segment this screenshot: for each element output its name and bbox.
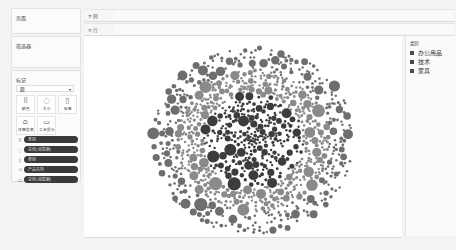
- bubble-mark[interactable]: [312, 103, 314, 105]
- bubble-mark[interactable]: [214, 89, 217, 92]
- bubble-mark[interactable]: [260, 162, 264, 166]
- bubble-mark[interactable]: [237, 143, 241, 147]
- bubble-mark[interactable]: [339, 161, 343, 165]
- bubble-mark[interactable]: [314, 119, 317, 122]
- bubble-mark[interactable]: [188, 131, 191, 134]
- bubble-mark[interactable]: [327, 165, 330, 168]
- bubble-mark[interactable]: [243, 228, 247, 232]
- bubble-mark[interactable]: [215, 190, 218, 193]
- bubble-mark[interactable]: [276, 81, 279, 84]
- pill-tooltip[interactable]: 总和(销售额): [24, 176, 78, 183]
- bubble-mark[interactable]: [209, 96, 211, 98]
- color-button[interactable]: ⠿颜色: [16, 95, 35, 114]
- bubble-mark[interactable]: [308, 150, 311, 153]
- bubble-mark[interactable]: [314, 175, 319, 180]
- bubble-mark[interactable]: [218, 86, 222, 90]
- bubble-mark[interactable]: [277, 189, 284, 196]
- packed-bubble-chart[interactable]: [84, 36, 402, 237]
- tooltip-button[interactable]: ▭工具提示: [37, 116, 56, 135]
- bubble-mark[interactable]: [248, 78, 254, 84]
- bubble-mark[interactable]: [173, 144, 175, 146]
- bubble-mark[interactable]: [277, 105, 279, 107]
- bubble-mark[interactable]: [254, 221, 257, 224]
- bubble-mark[interactable]: [230, 191, 236, 197]
- bubble-mark[interactable]: [289, 164, 294, 169]
- label-button[interactable]: ▯标签: [58, 95, 77, 114]
- bubble-mark[interactable]: [192, 147, 194, 149]
- bubble-mark[interactable]: [214, 198, 217, 201]
- bubble-mark[interactable]: [245, 82, 247, 84]
- bubble-mark[interactable]: [288, 180, 293, 185]
- bubble-mark[interactable]: [213, 95, 219, 101]
- bubble-mark[interactable]: [250, 196, 253, 199]
- bubble-mark[interactable]: [220, 137, 222, 139]
- bubble-mark[interactable]: [188, 144, 190, 146]
- bubble-mark[interactable]: [151, 144, 156, 149]
- bubble-mark[interactable]: [323, 202, 329, 208]
- bubble-mark[interactable]: [239, 101, 241, 103]
- bubble-mark[interactable]: [304, 167, 314, 177]
- bubble-mark[interactable]: [236, 80, 241, 85]
- bubble-mark[interactable]: [226, 58, 233, 65]
- bubble-mark[interactable]: [226, 188, 230, 192]
- bubble-mark[interactable]: [310, 210, 318, 218]
- bubble-mark[interactable]: [348, 124, 350, 126]
- bubble-mark[interactable]: [341, 124, 343, 126]
- bubble-mark[interactable]: [181, 151, 184, 154]
- bubble-mark[interactable]: [267, 103, 274, 110]
- bubble-mark[interactable]: [270, 221, 273, 224]
- bubble-mark[interactable]: [239, 130, 242, 133]
- bubble-mark[interactable]: [164, 159, 172, 167]
- bubble-mark[interactable]: [258, 84, 260, 86]
- bubble-mark[interactable]: [207, 79, 210, 82]
- bubble-mark[interactable]: [254, 180, 256, 182]
- bubble-mark[interactable]: [326, 112, 329, 115]
- bubble-mark[interactable]: [196, 193, 200, 197]
- bubble-mark[interactable]: [179, 96, 186, 103]
- bubble-mark[interactable]: [237, 148, 246, 157]
- bubble-mark[interactable]: [157, 121, 161, 125]
- bubble-mark[interactable]: [187, 134, 192, 139]
- bubble-mark[interactable]: [225, 127, 227, 129]
- bubble-mark[interactable]: [246, 102, 249, 105]
- bubble-mark[interactable]: [195, 132, 200, 137]
- bubble-mark[interactable]: [256, 88, 262, 94]
- bubble-mark[interactable]: [254, 131, 256, 133]
- bubble-mark[interactable]: [253, 228, 256, 231]
- bubble-mark[interactable]: [225, 89, 230, 94]
- bubble-mark[interactable]: [225, 160, 228, 163]
- bubble-mark[interactable]: [179, 105, 182, 108]
- bubble-mark[interactable]: [331, 94, 333, 96]
- bubble-mark[interactable]: [181, 199, 191, 209]
- bubble-mark[interactable]: [279, 139, 281, 141]
- bubble-mark[interactable]: [263, 136, 266, 139]
- bubble-mark[interactable]: [196, 144, 200, 148]
- bubble-mark[interactable]: [182, 133, 184, 135]
- bubble-mark[interactable]: [171, 139, 174, 142]
- bubble-mark[interactable]: [327, 184, 329, 186]
- bubble-mark[interactable]: [257, 46, 262, 51]
- bubble-mark[interactable]: [268, 131, 274, 137]
- bubble-mark[interactable]: [273, 76, 275, 78]
- bubble-mark[interactable]: [328, 146, 330, 148]
- bubble-mark[interactable]: [309, 123, 311, 125]
- bubble-mark[interactable]: [199, 158, 209, 168]
- bubble-mark[interactable]: [273, 207, 276, 210]
- bubble-mark[interactable]: [204, 178, 206, 180]
- bubble-mark[interactable]: [314, 85, 323, 94]
- bubble-mark[interactable]: [237, 137, 240, 140]
- bubble-mark[interactable]: [218, 163, 224, 169]
- bubble-mark[interactable]: [262, 72, 264, 74]
- bubble-mark[interactable]: [276, 118, 282, 124]
- bubble-mark[interactable]: [254, 141, 256, 143]
- pill-label[interactable]: 类别: [24, 156, 78, 163]
- bubble-mark[interactable]: [240, 173, 244, 177]
- bubble-mark[interactable]: [270, 161, 272, 163]
- bubble-mark[interactable]: [208, 202, 216, 210]
- bubble-mark[interactable]: [302, 110, 304, 112]
- bubble-mark[interactable]: [169, 120, 171, 122]
- bubble-mark[interactable]: [326, 141, 329, 144]
- filters-card[interactable]: 筛选器: [11, 36, 81, 68]
- bubble-mark[interactable]: [298, 116, 300, 118]
- bubble-mark[interactable]: [341, 144, 344, 147]
